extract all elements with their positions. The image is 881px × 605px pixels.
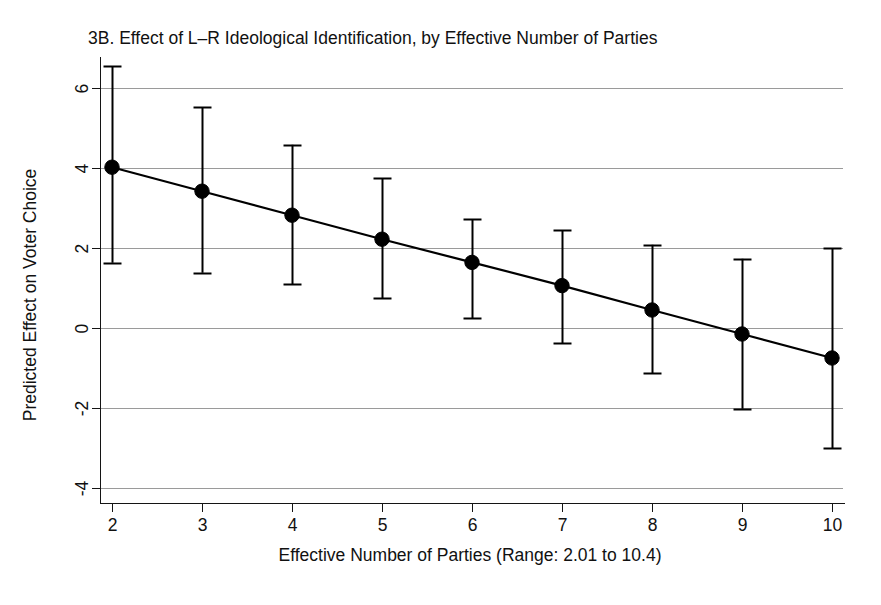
y-tick-label-0: 0: [72, 323, 92, 333]
chart-background: [0, 0, 881, 605]
y-tick-label-2: 2: [72, 244, 92, 254]
chart-figure: 3B. Effect of L–R Ideological Identifica…: [0, 0, 881, 605]
x-tick-label-9: 9: [738, 515, 748, 535]
data-point-enp-6: [465, 255, 479, 269]
data-point-enp-3: [195, 184, 209, 198]
y-tick-label--4: -4: [72, 480, 92, 496]
x-tick-label-8: 8: [648, 515, 658, 535]
chart-title: 3B. Effect of L–R Ideological Identifica…: [88, 28, 658, 48]
data-point-enp-2: [105, 160, 119, 174]
x-tick-label-7: 7: [558, 515, 568, 535]
x-tick-label-3: 3: [198, 515, 208, 535]
data-point-enp-8: [645, 303, 659, 317]
y-tick-label-4: 4: [72, 163, 92, 173]
y-axis-title: Predicted Effect on Voter Choice: [20, 169, 40, 422]
x-tick-label-10: 10: [823, 515, 843, 535]
y-tick-label--2: -2: [72, 401, 92, 417]
y-tick-label-6: 6: [72, 84, 92, 94]
scatter-line-chart-with-error-bars: 3B. Effect of L–R Ideological Identifica…: [0, 0, 881, 605]
data-point-enp-9: [735, 327, 749, 341]
data-point-enp-5: [375, 232, 389, 246]
data-point-enp-4: [285, 208, 299, 222]
x-tick-label-5: 5: [378, 515, 388, 535]
data-point-enp-7: [555, 278, 569, 292]
x-tick-label-2: 2: [108, 515, 118, 535]
x-tick-label-6: 6: [468, 515, 478, 535]
data-point-enp-10: [825, 351, 839, 365]
x-axis-title: Effective Number of Parties (Range: 2.01…: [279, 545, 662, 565]
x-tick-label-4: 4: [288, 515, 298, 535]
